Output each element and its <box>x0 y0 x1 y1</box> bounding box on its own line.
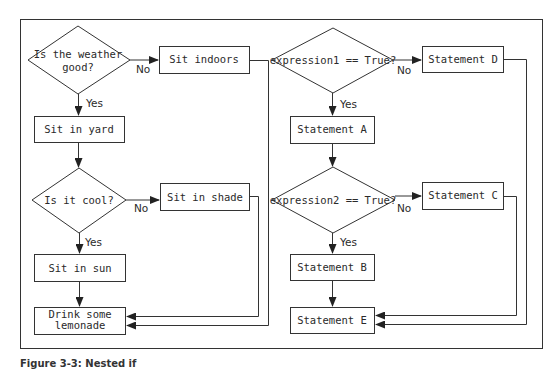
decision-weather-line1: Is the weather <box>34 48 123 60</box>
figure-caption: Figure 3-3: Nested if <box>20 358 136 369</box>
label-yes-cool: Yes <box>84 236 102 248</box>
label-expression1: expression1 == True? <box>270 54 396 66</box>
label-no-weather: No <box>136 63 150 75</box>
label-sit-in-shade: Sit in shade <box>167 191 243 203</box>
label-sit-indoors: Sit indoors <box>169 53 239 65</box>
label-expression2: expression2 == True? <box>270 194 396 206</box>
label-statement-d: Statement D <box>428 53 498 65</box>
label-drink-line2: lemonade <box>55 319 106 331</box>
label-statement-c: Statement C <box>428 189 498 201</box>
label-no-expr1: No <box>397 64 411 76</box>
label-yes-weather: Yes <box>85 97 103 109</box>
label-no-cool: No <box>134 202 148 214</box>
label-yes-expr2: Yes <box>339 236 357 248</box>
label-no-expr2: No <box>397 202 411 214</box>
decision-weather-good <box>28 26 130 94</box>
decision-cool-line1: Is it cool? <box>44 194 114 206</box>
label-statement-b: Statement B <box>297 261 367 273</box>
label-statement-e: Statement E <box>297 314 367 326</box>
label-yes-expr1: Yes <box>339 98 357 110</box>
label-sit-in-sun: Sit in sun <box>48 262 111 274</box>
label-sit-in-yard: Sit in yard <box>44 123 114 135</box>
label-statement-a: Statement A <box>297 123 367 135</box>
decision-weather-line2: good? <box>62 61 94 73</box>
right-flowchart <box>272 28 504 334</box>
